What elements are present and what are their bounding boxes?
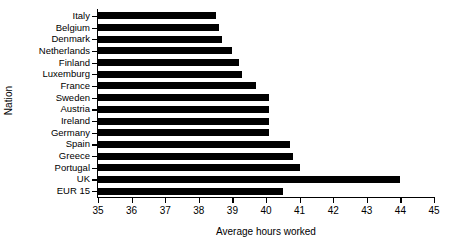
y-axis-tick bbox=[92, 133, 97, 134]
x-axis-tick-label: 38 bbox=[186, 205, 212, 217]
bar bbox=[98, 164, 300, 171]
x-axis-tick bbox=[165, 198, 166, 203]
y-axis-tick-label: Sweden bbox=[16, 93, 90, 103]
x-axis-tick bbox=[300, 198, 301, 203]
x-axis-tick bbox=[434, 198, 435, 203]
y-axis-tick bbox=[92, 191, 97, 192]
y-axis-tick-label: UK bbox=[16, 174, 90, 184]
x-axis-tick-label: 36 bbox=[119, 205, 145, 217]
bar bbox=[98, 176, 400, 183]
y-axis-tick bbox=[92, 156, 97, 157]
y-axis-tick-label: Finland bbox=[16, 58, 90, 68]
y-axis-tick-label: Austria bbox=[16, 104, 90, 114]
bar bbox=[98, 71, 242, 78]
y-axis-tick-label: Spain bbox=[16, 139, 90, 149]
x-axis-tick-label: 40 bbox=[253, 205, 279, 217]
x-axis-tick bbox=[98, 198, 99, 203]
x-axis-tick-label: 45 bbox=[421, 205, 447, 217]
y-axis-tick-label: Ireland bbox=[16, 116, 90, 126]
y-axis-tick-label: Denmark bbox=[16, 34, 90, 44]
x-axis-tick bbox=[199, 198, 200, 203]
y-axis-tick bbox=[92, 39, 97, 40]
y-axis-tick-label: Italy bbox=[16, 11, 90, 21]
y-axis-tick-label: EUR 15 bbox=[16, 186, 90, 196]
bar bbox=[98, 82, 256, 89]
y-axis-tick bbox=[92, 121, 97, 122]
x-axis-tick bbox=[367, 198, 368, 203]
y-axis-tick-label: Germany bbox=[16, 128, 90, 138]
bar bbox=[98, 141, 290, 148]
y-axis-tick-label: Greece bbox=[16, 151, 90, 161]
y-axis-tick bbox=[92, 74, 97, 75]
y-axis-tick bbox=[92, 144, 97, 145]
bar bbox=[98, 118, 269, 125]
y-axis-tick bbox=[92, 63, 97, 64]
bar-chart: Nation ItalyBelgiumDenmarkNetherlandsFin… bbox=[0, 0, 456, 250]
bar bbox=[98, 36, 222, 43]
y-axis-tick bbox=[92, 109, 97, 110]
x-axis-tick bbox=[333, 198, 334, 203]
y-axis-tick-label: Netherlands bbox=[16, 46, 90, 56]
bar bbox=[98, 188, 283, 195]
y-axis-tick bbox=[92, 98, 97, 99]
x-axis-tick bbox=[232, 198, 233, 203]
bar bbox=[98, 94, 269, 101]
y-axis-tick-label: Portugal bbox=[16, 163, 90, 173]
x-axis-tick bbox=[132, 198, 133, 203]
bar bbox=[98, 153, 293, 160]
y-axis-tick-labels: ItalyBelgiumDenmarkNetherlandsFinlandLux… bbox=[18, 10, 94, 197]
x-axis-tick-label: 35 bbox=[85, 205, 111, 217]
plot-area bbox=[98, 10, 434, 197]
y-axis-tick-label: Belgium bbox=[16, 23, 90, 33]
bar bbox=[98, 24, 219, 31]
x-axis-tick-label: 41 bbox=[287, 205, 313, 217]
x-axis-tick-label: 39 bbox=[219, 205, 245, 217]
y-axis-tick bbox=[92, 16, 97, 17]
x-axis-tick-label: 37 bbox=[152, 205, 178, 217]
y-axis-tick bbox=[92, 51, 97, 52]
x-axis-tick-label: 44 bbox=[387, 205, 413, 217]
x-axis-tick-label: 43 bbox=[354, 205, 380, 217]
y-axis-tick bbox=[92, 179, 97, 180]
x-axis-tick-label: 42 bbox=[320, 205, 346, 217]
y-axis-tick-label: Luxemburg bbox=[16, 69, 90, 79]
bar bbox=[98, 106, 269, 113]
y-axis-tick-label: France bbox=[16, 81, 90, 91]
x-axis-tick bbox=[266, 198, 267, 203]
bar bbox=[98, 129, 269, 136]
y-axis-tick bbox=[92, 28, 97, 29]
y-axis-tick bbox=[92, 86, 97, 87]
bar bbox=[98, 12, 216, 19]
y-axis-tick bbox=[92, 168, 97, 169]
y-axis-title-text: Nation bbox=[4, 85, 15, 115]
x-axis-title: Average hours worked bbox=[98, 226, 434, 237]
bar bbox=[98, 59, 239, 66]
x-axis-tick bbox=[400, 198, 401, 203]
bar bbox=[98, 47, 232, 54]
